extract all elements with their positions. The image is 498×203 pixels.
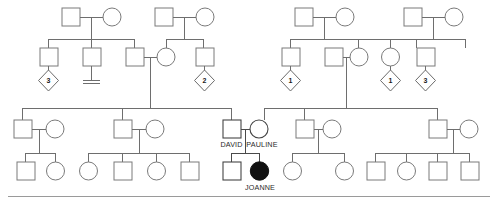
person-circle-g4-2[interactable] <box>47 162 65 180</box>
person-circle-g4-5[interactable] <box>148 162 166 180</box>
couple-g1-a <box>48 8 135 48</box>
couple-g3-e <box>375 120 478 162</box>
person-circle[interactable] <box>382 48 400 66</box>
couple-g1-b <box>155 8 214 48</box>
person-square-g4-13[interactable] <box>429 162 447 180</box>
person-circle[interactable] <box>350 48 368 66</box>
person-circle[interactable] <box>196 8 214 26</box>
couple-g3-b <box>88 120 190 162</box>
person-square[interactable] <box>62 8 80 26</box>
g2-f2 <box>350 48 368 66</box>
person-square-g4-1[interactable] <box>17 162 35 180</box>
label-joanne: JOANNE <box>245 183 275 192</box>
person-circle-g4-3[interactable] <box>80 162 98 180</box>
person-square[interactable] <box>295 8 313 26</box>
person-square[interactable] <box>126 48 144 66</box>
person-circle[interactable] <box>46 120 64 138</box>
couple-g3-d <box>292 120 345 162</box>
person-square-g4-6[interactable] <box>181 162 199 180</box>
person-square[interactable] <box>282 48 300 66</box>
g2-f1 <box>157 48 175 66</box>
person-square[interactable] <box>114 120 132 138</box>
person-square[interactable] <box>325 48 343 66</box>
g2-f3: 1 <box>381 48 401 91</box>
person-circle[interactable] <box>146 120 164 138</box>
person-square[interactable] <box>40 48 58 66</box>
person-square[interactable] <box>417 48 435 66</box>
person-circle[interactable] <box>336 8 354 26</box>
person-square[interactable] <box>14 120 32 138</box>
person-circle-g4-10[interactable] <box>336 162 354 180</box>
couple-g3-c-david-pauline: DAVID PAULINE <box>220 120 277 162</box>
person-square-g4-14[interactable] <box>461 162 479 180</box>
person-circle-g4-9[interactable] <box>284 162 302 180</box>
person-circle[interactable] <box>323 120 341 138</box>
diamond-count: 1 <box>389 77 393 84</box>
g2-m7: 3 <box>416 48 436 91</box>
person-circle-joanne-affected[interactable] <box>250 162 268 180</box>
person-circle[interactable] <box>103 8 121 26</box>
g2-m2 <box>83 48 101 84</box>
g2-m1: 3 <box>39 48 59 91</box>
diamond-count: 1 <box>289 77 293 84</box>
person-circle[interactable] <box>157 48 175 66</box>
person-square-g4-11[interactable] <box>367 162 385 180</box>
g2-m6 <box>325 48 343 66</box>
person-circle[interactable] <box>460 120 478 138</box>
person-square[interactable] <box>83 48 101 66</box>
g2-m3 <box>126 48 144 66</box>
diamond-count: 2 <box>203 77 207 84</box>
person-square-g4-4[interactable] <box>114 162 132 180</box>
person-square-g4-7[interactable] <box>223 162 241 180</box>
label-david: DAVID <box>220 140 242 149</box>
pedigree-svg: 3 2 1 1 <box>0 0 498 203</box>
person-square-david[interactable] <box>223 120 241 138</box>
couple-g1-c <box>290 8 359 48</box>
person-square[interactable] <box>155 8 173 26</box>
g2-m5: 1 <box>281 48 301 91</box>
pedigree-chart: 3 2 1 1 <box>0 0 498 203</box>
label-pauline: PAULINE <box>246 140 277 149</box>
g2-m4: 2 <box>195 48 215 91</box>
diamond-count: 3 <box>424 77 428 84</box>
person-circle[interactable] <box>445 8 463 26</box>
person-square[interactable] <box>404 8 422 26</box>
person-square[interactable] <box>429 120 447 138</box>
person-circle-g4-12[interactable] <box>398 162 416 180</box>
person-circle-pauline[interactable] <box>250 120 268 138</box>
diamond-count: 3 <box>47 77 51 84</box>
person-square[interactable] <box>196 48 214 66</box>
couple-g3-a <box>14 120 64 162</box>
couple-g1-d <box>359 8 466 48</box>
person-square[interactable] <box>296 120 314 138</box>
